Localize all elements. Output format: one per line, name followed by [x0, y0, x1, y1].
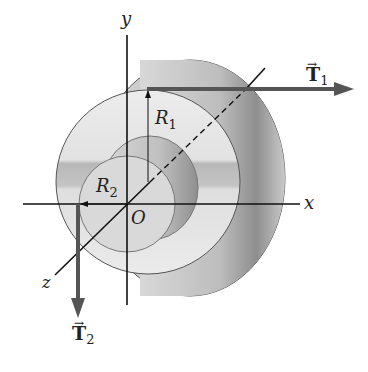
- pulley-diagram: y x z O R1 R2 → T1 → T2: [0, 0, 368, 372]
- x-axis-label: x: [304, 192, 314, 213]
- z-axis-label: z: [41, 273, 51, 292]
- svg-text:T1: T1: [306, 63, 328, 88]
- t1-label: → T1: [306, 57, 328, 88]
- t2-label: → T2: [72, 316, 94, 347]
- origin-label: O: [131, 207, 146, 228]
- y-axis-label: y: [120, 8, 132, 29]
- z-axis-back: [245, 68, 265, 90]
- svg-text:T2: T2: [72, 322, 94, 347]
